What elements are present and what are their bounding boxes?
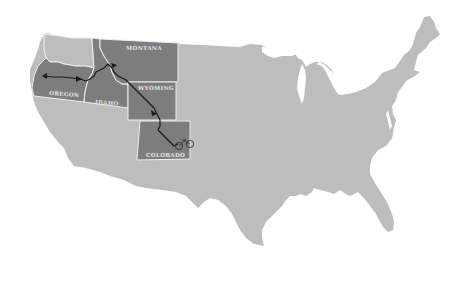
label-wyoming: WYOMING <box>137 85 174 91</box>
us-map: MONTANA OREGON IDAHO WYOMING COLORADO <box>0 0 463 294</box>
label-montana: MONTANA <box>126 45 162 51</box>
label-colorado: COLORADO <box>146 152 185 158</box>
